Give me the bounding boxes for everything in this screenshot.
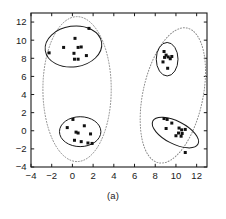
scatter-plot-figure: −4−2024681012−4−2024681012 (a) [0,0,226,219]
y-axis-tick-label: 2 [21,107,26,118]
data-point-cluster-bottom-right [178,127,181,130]
data-point-cluster-bottom-right [180,128,183,131]
x-axis-tick-label: −2 [46,170,57,181]
data-point-cluster-top-left [48,51,51,54]
x-axis-tick-label: 4 [111,170,116,181]
data-point-cluster-top-right [166,67,169,70]
data-point-cluster-top-left [74,37,77,40]
data-point-cluster-top-left [72,52,75,55]
y-axis-tick-label: 10 [16,35,27,46]
data-point-cluster-top-left [87,27,90,30]
data-point-cluster-bottom-right [180,135,183,138]
data-point-cluster-top-right [163,56,166,59]
y-axis-tick-label: −4 [16,161,27,172]
x-axis-tick-label: 8 [153,170,158,181]
x-axis-tick-label: 12 [191,170,202,181]
data-point-cluster-bottom-right [177,132,180,135]
data-point-cluster-bottom-right [165,127,168,130]
data-point-cluster-bottom-left [91,142,94,145]
data-point-cluster-top-left [77,58,80,61]
x-axis-tick-label: 6 [132,170,137,181]
x-axis-tick-label: −4 [26,170,37,181]
data-point-cluster-bottom-right [184,151,187,154]
data-point-cluster-bottom-left [83,124,86,127]
data-point-cluster-bottom-left [77,132,80,135]
data-point-cluster-top-right [162,60,165,63]
data-point-cluster-bottom-left [89,132,92,135]
data-point-cluster-top-left [85,54,88,57]
data-point-cluster-top-right [163,50,166,53]
data-point-cluster-bottom-left [71,118,74,121]
data-point-cluster-bottom-left [73,139,76,142]
y-axis-tick-label: −2 [16,143,27,154]
data-point-cluster-top-left [62,46,65,49]
data-point-cluster-bottom-right [184,128,187,131]
data-point-cluster-bottom-right [174,134,177,137]
x-axis-tick-label: 0 [70,170,75,181]
data-point-cluster-bottom-left [86,141,89,144]
y-axis-tick-label: 4 [21,89,26,100]
plot-frame [31,13,207,167]
y-axis-tick-label: 8 [21,53,26,64]
data-point-cluster-bottom-right [181,132,184,135]
data-point-cluster-top-right [169,57,172,60]
data-point-cluster-bottom-left [66,126,69,129]
data-point-cluster-top-left [80,45,83,48]
y-axis-tick-label: 0 [21,125,26,136]
data-point-cluster-top-left [73,58,76,61]
data-point-cluster-bottom-left [80,140,83,143]
figure-caption: (a) [0,190,226,201]
data-point-cluster-bottom-right [166,118,169,121]
x-axis-tick-label: 10 [171,170,182,181]
plot-canvas: −4−2024681012−4−2024681012 [0,0,226,219]
data-point-cluster-bottom-right [170,122,173,125]
data-point-cluster-bottom-right [163,117,166,120]
x-axis-tick-label: 2 [90,170,95,181]
y-axis-tick-label: 6 [21,71,26,82]
y-axis-tick-label: 12 [16,16,27,27]
data-point-cluster-top-left [77,46,80,49]
